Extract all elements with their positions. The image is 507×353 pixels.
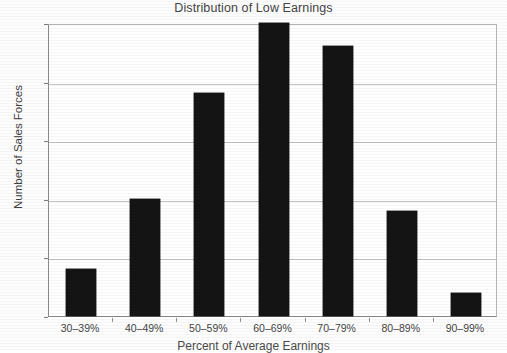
y-axis-tick-mark — [44, 200, 48, 201]
y-axis-tick-mark — [44, 141, 48, 142]
bar — [323, 46, 353, 316]
y-axis-tick-mark — [44, 258, 48, 259]
bar — [387, 211, 417, 316]
x-axis-tick-label: 80–89% — [366, 322, 436, 334]
bar — [194, 93, 224, 316]
x-axis-tick-label: 50–59% — [173, 322, 243, 334]
bar — [130, 199, 160, 316]
y-axis-title: Number of Sales Forces — [12, 57, 24, 237]
y-axis-tick-mark — [44, 83, 48, 84]
x-axis-tick-label: 60–69% — [238, 322, 308, 334]
bar — [66, 269, 96, 316]
plot-area — [48, 24, 497, 317]
bar — [259, 23, 289, 316]
x-axis-tick-label: 40–49% — [109, 322, 179, 334]
x-axis-tick-label: 30–39% — [45, 322, 115, 334]
x-axis-tick-label: 70–79% — [302, 322, 372, 334]
x-axis-title: Percent of Average Earnings — [0, 339, 507, 353]
x-axis-tick-label: 90–99% — [430, 322, 500, 334]
chart-title: Distribution of Low Earnings — [0, 1, 507, 15]
y-axis-tick-mark — [44, 317, 48, 318]
bar — [451, 293, 481, 316]
y-axis-tick-mark — [44, 24, 48, 25]
